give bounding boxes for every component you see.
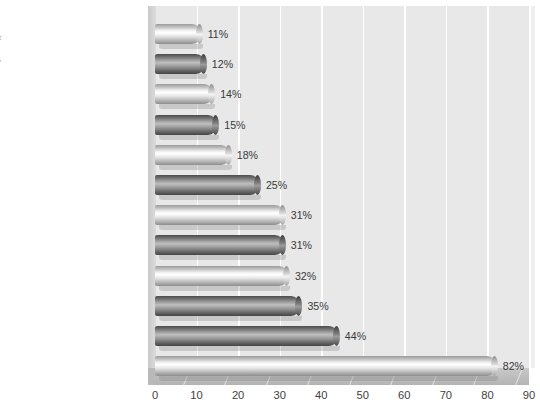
bar-end-cap <box>279 235 286 255</box>
value-label: 25% <box>266 175 287 195</box>
bar-shadow <box>159 255 286 260</box>
bar-shadow <box>159 104 215 109</box>
value-label: 14% <box>220 84 241 104</box>
bar-row <box>155 205 284 225</box>
value-label: 44% <box>345 326 366 346</box>
bar <box>155 205 284 225</box>
bar-end-cap <box>254 175 261 195</box>
x-tick-label: 50 <box>348 389 378 401</box>
bar-row <box>155 235 284 255</box>
bar-row <box>155 266 288 286</box>
bar-row <box>155 326 338 346</box>
bar-end-cap <box>279 205 286 225</box>
bar <box>155 54 205 74</box>
bar-row <box>155 54 205 74</box>
bar <box>155 235 284 255</box>
value-label: 32% <box>295 266 316 286</box>
bar <box>155 145 230 165</box>
x-tick-label: 60 <box>389 389 419 401</box>
bar <box>155 326 338 346</box>
x-tick-label: 20 <box>223 389 253 401</box>
value-label: 11% <box>208 24 228 44</box>
bar-shadow <box>159 165 232 170</box>
bar-row <box>155 356 496 376</box>
bar-row <box>155 145 230 165</box>
bar <box>155 266 288 286</box>
bar-shadow <box>159 286 290 291</box>
bar-shadow <box>159 376 498 381</box>
bar-shadow <box>159 74 207 79</box>
value-label: 82% <box>503 356 524 376</box>
bar <box>155 115 217 135</box>
bar-row <box>155 24 201 44</box>
x-tick-label: 40 <box>306 389 336 401</box>
bar-end-cap <box>333 326 340 346</box>
gridline <box>529 6 531 368</box>
x-tick-label: 10 <box>182 389 212 401</box>
bar-shadow <box>159 316 302 321</box>
bar-row <box>155 175 259 195</box>
value-label: 31% <box>291 235 312 255</box>
bar <box>155 296 300 316</box>
bar-shadow <box>159 346 340 351</box>
bar-end-cap <box>225 145 232 165</box>
x-tick-label: 30 <box>265 389 295 401</box>
x-tick-label: 90 <box>514 389 540 401</box>
bar <box>155 175 259 195</box>
gridline <box>487 6 489 368</box>
x-tick-label: 80 <box>472 389 502 401</box>
value-label: 18% <box>237 145 258 165</box>
gridline <box>404 6 406 368</box>
x-tick-label: 70 <box>431 389 461 401</box>
bar-end-cap <box>196 24 203 44</box>
bar-shadow <box>159 195 261 200</box>
bar <box>155 356 496 376</box>
bar-row <box>155 296 300 316</box>
bar-row <box>155 115 217 135</box>
bar <box>155 84 213 104</box>
value-label: 12% <box>212 54 233 74</box>
gridline <box>363 6 365 368</box>
bar-end-cap <box>283 266 290 286</box>
value-label: 31% <box>291 205 312 225</box>
bar-shadow <box>159 225 286 230</box>
gridline <box>446 6 448 368</box>
bar-end-cap <box>491 356 498 376</box>
x-tick-label: 0 <box>140 389 170 401</box>
bar-shadow <box>159 44 203 49</box>
value-label: 35% <box>307 296 328 316</box>
bar-end-cap <box>200 54 207 74</box>
bar-shadow <box>159 135 219 140</box>
bar-row <box>155 84 213 104</box>
bar <box>155 24 201 44</box>
value-label: 15% <box>224 115 245 135</box>
